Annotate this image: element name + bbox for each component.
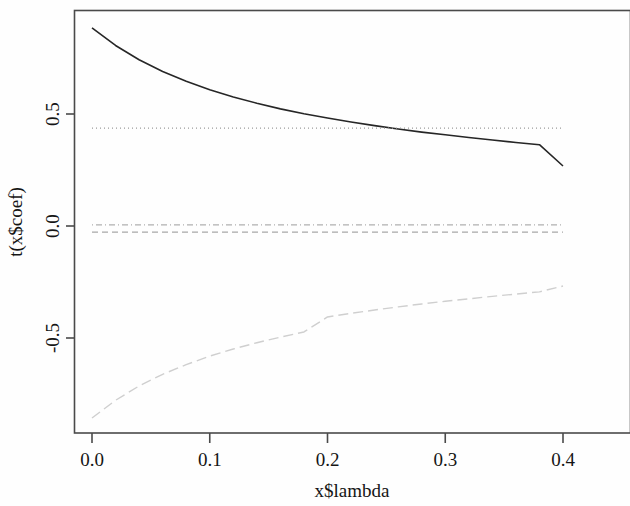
y-axis-title: t(x$coef) [5, 187, 27, 257]
x-tick-label: 0.0 [80, 449, 104, 470]
canvas-background [0, 0, 630, 506]
x-tick-label: 0.1 [198, 449, 222, 470]
y-tick-label: 0.0 [42, 214, 63, 238]
chart-canvas: 0.50.0-0.5 0.00.10.20.30.4 x$lambda t(x$… [0, 0, 630, 506]
x-tick-label: 0.3 [433, 449, 457, 470]
y-tick-label: -0.5 [42, 323, 63, 353]
x-tick-label: 0.4 [551, 449, 575, 470]
x-tick-label: 0.2 [316, 449, 340, 470]
y-tick-label: 0.5 [42, 102, 63, 126]
x-axis-title: x$lambda [315, 480, 390, 501]
plot-screenshot: 0.50.0-0.5 0.00.10.20.30.4 x$lambda t(x$… [0, 0, 630, 506]
